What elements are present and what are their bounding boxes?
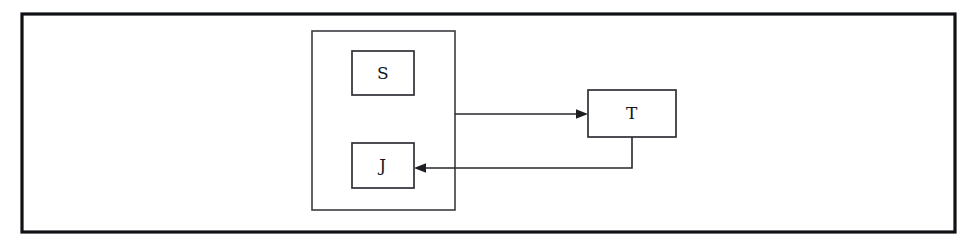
- node-label-j: J: [377, 155, 386, 175]
- diagram-canvas: S J T: [0, 0, 976, 246]
- outer-frame: [22, 14, 955, 232]
- node-label-s: S: [377, 63, 389, 83]
- block-diagram: S J T: [0, 0, 976, 246]
- node-label-t: T: [626, 103, 638, 123]
